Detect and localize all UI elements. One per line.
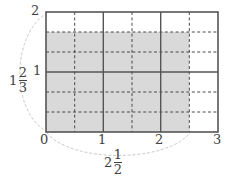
width-label-whole: 2 [104,156,114,169]
height-label-denominator: 3 [19,81,27,94]
height-label-numerator: 2 [19,66,27,79]
x-axis-tick-label-1: 1 [98,133,106,146]
x-axis-tick-label-0: 0 [40,133,48,146]
shaded-area-rect [46,32,189,132]
x-axis-tick-label-2: 2 [155,133,163,146]
height-label-fraction: 2 3 [19,66,27,95]
width-label-numerator: 1 [114,148,122,161]
width-label-fraction: 1 2 [114,148,122,177]
y-axis-tick-label-2: 2 [31,4,39,17]
area-model-figure: 2 1 0 1 2 3 1 2 3 2 1 2 [0,0,234,177]
width-dimension-label: 2 1 2 [104,148,122,177]
y-axis-tick-label-1: 1 [33,64,41,77]
width-label-denominator: 2 [114,163,122,176]
height-label-whole: 1 [9,74,19,87]
x-axis-tick-label-3: 3 [213,133,221,146]
height-dimension-label: 1 2 3 [9,66,27,95]
